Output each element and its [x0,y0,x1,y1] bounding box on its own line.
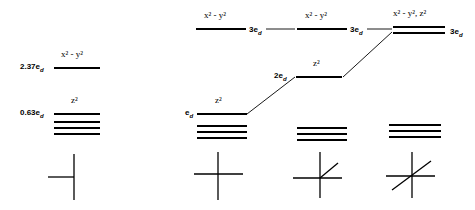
geometry-icon-panel3-diagonal-ray [320,163,338,178]
figure-canvas: 2.37ed x² - y² 0.63ed z² x² - y² 3ed ed … [0,0,475,210]
correlation-line-z2-panel3-panel4 [343,32,392,77]
correlation-line-z2-panel2-panel3 [247,77,295,114]
overlay-lines [0,0,475,210]
